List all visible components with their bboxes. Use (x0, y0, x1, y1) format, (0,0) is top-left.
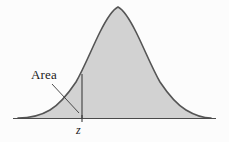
z-axis-label: z (76, 124, 81, 136)
normal-curve-shaded-area (18, 7, 211, 118)
normal-curve-figure: Area z (0, 0, 229, 142)
area-label: Area (31, 68, 57, 81)
